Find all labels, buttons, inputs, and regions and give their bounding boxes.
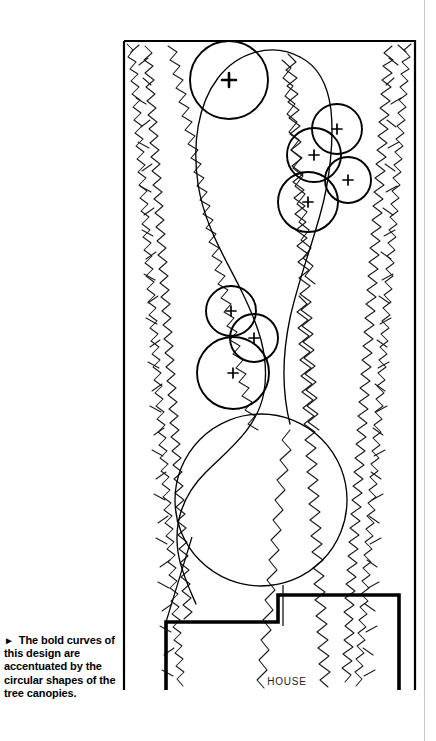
landscape-plan-drawing: [0, 0, 436, 741]
triangle-bullet-icon: ►: [4, 635, 14, 646]
house-label: HOUSE: [252, 676, 322, 687]
page-canvas: ►The bold curves of this design are acce…: [0, 0, 436, 741]
caption-text: The bold curves of this design are accen…: [4, 634, 116, 699]
figure-caption: ►The bold curves of this design are acce…: [4, 634, 122, 700]
